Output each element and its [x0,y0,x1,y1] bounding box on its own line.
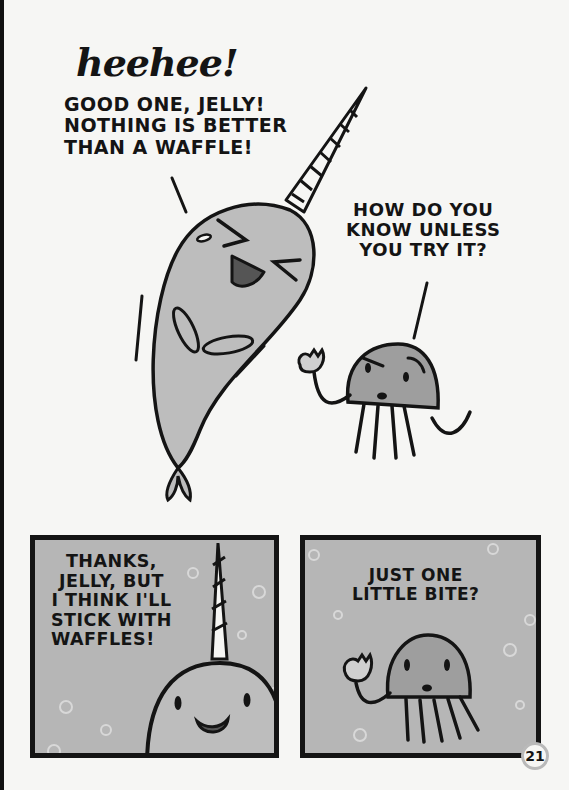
waffle-icon [344,655,371,681]
speech-line: NOTHING IS BETTER [64,115,287,136]
panel-jelly-question: JUST ONELITTLE BITE? [300,535,541,758]
narwhal-horn-icon [286,88,366,212]
speech-line: STICK WITH [51,611,172,631]
speech-line: WAFFLES! [51,630,172,650]
narwhal-speech-bubble: THANKS,JELLY, BUTI THINK I'LLSTICK WITHW… [51,552,172,650]
panel-narwhal-reply: THANKS,JELLY, BUTI THINK I'LLSTICK WITHW… [30,535,279,758]
jelly-skeptical-icon [299,344,470,458]
speech-line: JUST ONE [352,566,479,585]
speech-line: HOW DO YOU [346,200,501,220]
speech-line: THAN A WAFFLE! [64,137,287,158]
jelly-speech-bubble: JUST ONELITTLE BITE? [352,566,479,604]
narwhal-laugh-sound-effect: heehee! [76,40,238,85]
speech-line: I THINK I'LL [51,591,172,611]
speech-line: JELLY, BUT [51,572,172,592]
speech-line: GOOD ONE, JELLY! [64,94,287,115]
speech-line: LITTLE BITE? [352,585,479,604]
page-number-badge: 21 [521,742,549,770]
waffle-icon [299,350,324,372]
narwhal-laughing-icon [136,204,314,500]
speech-line: KNOW UNLESS [346,220,501,240]
speech-line: THANKS, [51,552,172,572]
speech-line: YOU TRY IT? [346,240,501,260]
jelly-speech-bubble: HOW DO YOUKNOW UNLESSYOU TRY IT? [346,200,501,260]
narwhal-speech-bubble: GOOD ONE, JELLY!NOTHING IS BETTERTHAN A … [64,94,287,158]
